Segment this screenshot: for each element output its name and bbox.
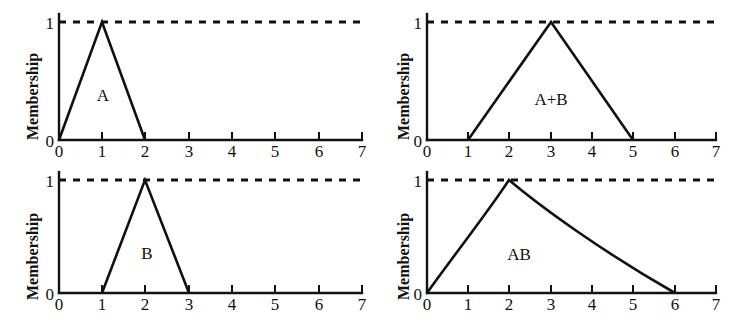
- curve-ab: [427, 180, 675, 293]
- y-label-zero-ab: 0: [414, 285, 423, 304]
- x-label-4-ab: 4: [588, 295, 597, 314]
- x-label-2-a-plus-b: 2: [505, 142, 514, 161]
- x-label-5-a: 5: [271, 142, 280, 161]
- x-label-0-a: 0: [55, 142, 64, 161]
- x-label-6-a: 6: [315, 142, 324, 161]
- set-label-ab: AB: [507, 245, 531, 264]
- set-label-a: A: [97, 86, 110, 105]
- x-label-0-a-plus-b: 0: [423, 142, 432, 161]
- panel-ab: Membership 1 0 0 1 2 3 4 5 6 7 AB: [371, 167, 742, 334]
- x-label-1-ab: 1: [464, 295, 473, 314]
- y-axis-title-b: Membership: [24, 213, 42, 300]
- x-label-2-ab: 2: [505, 295, 514, 314]
- x-label-3-ab: 3: [547, 295, 556, 314]
- x-label-7-ab: 7: [712, 295, 721, 314]
- x-label-7-a-plus-b: 7: [712, 142, 721, 161]
- y-label-zero-a: 0: [46, 132, 55, 151]
- x-label-3-a-plus-b: 3: [547, 142, 556, 161]
- x-label-4-a-plus-b: 4: [588, 142, 597, 161]
- x-label-3-a: 3: [185, 142, 194, 161]
- y-label-zero-b: 0: [46, 285, 55, 304]
- panel-a: Membership 1 0 0 1 2 3 4 5: [0, 0, 371, 167]
- panel-a-plus-b: Membership 1 0 0 1 2 3 4 5 6 7 A+B: [371, 0, 742, 167]
- x-label-5-a-plus-b: 5: [629, 142, 638, 161]
- curve-a-plus-b: [468, 22, 633, 140]
- x-label-7-b: 7: [358, 295, 367, 314]
- x-label-6-a-plus-b: 6: [671, 142, 680, 161]
- plot-b: 1 0 0 1 2 3 4 5 6 7 B: [0, 167, 371, 334]
- y-label-one-b: 1: [46, 172, 55, 191]
- x-label-0-ab: 0: [423, 295, 432, 314]
- x-label-5-b: 5: [271, 295, 280, 314]
- x-label-2-b: 2: [141, 295, 150, 314]
- curve-a: [59, 22, 145, 140]
- x-label-6-b: 6: [315, 295, 324, 314]
- x-label-1-b: 1: [98, 295, 107, 314]
- x-label-4-a: 4: [228, 142, 237, 161]
- x-label-3-b: 3: [185, 295, 194, 314]
- x-label-7-a: 7: [358, 142, 367, 161]
- panel-b: Membership 1 0 0 1 2 3 4 5 6 7 B: [0, 167, 371, 334]
- x-label-4-b: 4: [228, 295, 237, 314]
- y-label-one-a-plus-b: 1: [414, 14, 423, 33]
- plot-ab: 1 0 0 1 2 3 4 5 6 7 AB: [371, 167, 742, 334]
- x-label-2-a: 2: [141, 142, 150, 161]
- y-axis-title-a: Membership: [24, 53, 42, 140]
- x-label-6-ab: 6: [671, 295, 680, 314]
- curve-b: [102, 180, 189, 293]
- y-label-one-a: 1: [46, 14, 55, 33]
- plot-a-plus-b: 1 0 0 1 2 3 4 5 6 7 A+B: [371, 0, 742, 167]
- x-label-1-a-plus-b: 1: [464, 142, 473, 161]
- plot-a: 1 0 0 1 2 3 4 5 6 7 A: [0, 0, 371, 167]
- set-label-b: B: [141, 244, 152, 263]
- y-label-zero-a-plus-b: 0: [414, 132, 423, 151]
- x-label-5-ab: 5: [629, 295, 638, 314]
- figure-membership-functions: Membership 1 0 0 1 2 3 4 5: [0, 0, 742, 334]
- y-axis-title-ab: Membership: [395, 213, 413, 300]
- x-label-1-a: 1: [98, 142, 107, 161]
- y-axis-title-a-plus-b: Membership: [395, 53, 413, 140]
- x-label-0-b: 0: [55, 295, 64, 314]
- y-label-one-ab: 1: [414, 172, 423, 191]
- caption-strip: [0, 326, 742, 334]
- set-label-a-plus-b: A+B: [534, 90, 567, 109]
